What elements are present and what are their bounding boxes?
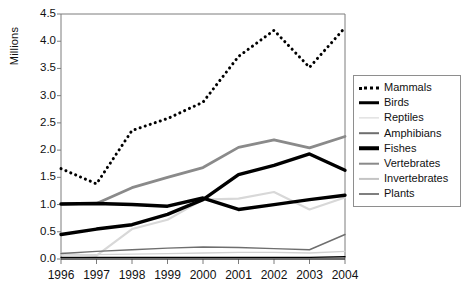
legend-item-mammals[interactable]: Mammals — [359, 80, 460, 95]
legend-swatch-icon — [359, 128, 379, 138]
legend-swatch-icon — [359, 83, 379, 93]
line-chart: Millions 0.00.51.01.52.02.53.03.54.04.5 … — [0, 0, 466, 299]
legend-swatch-icon — [359, 159, 379, 169]
legend-swatch-icon — [359, 98, 379, 108]
legend-swatch-icon — [359, 174, 379, 184]
plot-frame — [61, 14, 345, 259]
legend-item-label: Birds — [384, 97, 409, 108]
legend-item-label: Mammals — [384, 82, 432, 93]
series-line-birds — [61, 195, 345, 209]
legend-item-label: Invertebrates — [384, 173, 448, 184]
series-line-plants — [61, 257, 345, 258]
series-line-mammals — [61, 28, 345, 184]
series-line-reptiles — [61, 251, 345, 255]
legend-item-label: Amphibians — [384, 128, 441, 139]
legend-item-label: Fishes — [384, 143, 416, 154]
legend-item-plants[interactable]: Plants — [359, 186, 460, 201]
legend-item-label: Plants — [384, 188, 415, 199]
legend-item-fishes[interactable]: Fishes — [359, 141, 460, 156]
legend-item-invertebrates[interactable]: Invertebrates — [359, 171, 460, 186]
series-line-amphibians — [61, 235, 345, 254]
legend-swatch-icon — [359, 189, 379, 199]
legend-item-label: Reptiles — [384, 112, 424, 123]
legend-item-amphibians[interactable]: Amphibians — [359, 126, 460, 141]
legend-item-reptiles[interactable]: Reptiles — [359, 110, 460, 125]
legend-item-vertebrates[interactable]: Vertebrates — [359, 156, 460, 171]
chart-legend: MammalsBirdsReptilesAmphibiansFishesVert… — [353, 75, 461, 207]
legend-item-label: Vertebrates — [384, 158, 440, 169]
legend-item-birds[interactable]: Birds — [359, 95, 460, 110]
legend-swatch-icon — [359, 143, 379, 153]
legend-swatch-icon — [359, 113, 379, 123]
series-line-vertebrates — [61, 137, 345, 205]
